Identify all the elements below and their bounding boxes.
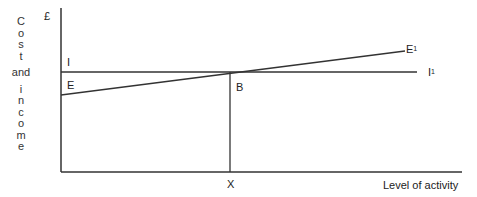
x-axis-label: Level of activity (383, 180, 458, 191)
intersection-label: B (236, 82, 243, 93)
currency-label: £ (44, 11, 50, 22)
expenditure-line (61, 51, 405, 95)
diagram-canvas (0, 0, 477, 197)
income-end-label: I1 (428, 67, 435, 78)
expenditure-end-label: E1 (406, 44, 417, 55)
expenditure-start-label: E (67, 80, 74, 91)
income-start-label: I (67, 57, 70, 68)
x-marker-label: X (227, 179, 234, 190)
y-axis-label: C o s t and i n c o m e (8, 16, 34, 153)
